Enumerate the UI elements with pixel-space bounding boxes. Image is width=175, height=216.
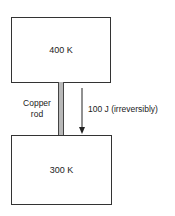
cold-reservoir-temperature: 300 K <box>50 165 74 175</box>
rod-label-line2: rod <box>20 109 54 120</box>
copper-rod <box>58 82 64 136</box>
cold-reservoir: 300 K <box>11 135 112 205</box>
heat-flow-arrow-icon <box>78 88 86 135</box>
heat-flow-label: 100 J (irreversibly) <box>88 104 158 115</box>
rod-label-line1: Copper <box>20 98 54 109</box>
hot-reservoir: 400 K <box>11 17 111 83</box>
hot-reservoir-temperature: 400 K <box>49 45 73 55</box>
rod-label: Copper rod <box>20 98 54 120</box>
